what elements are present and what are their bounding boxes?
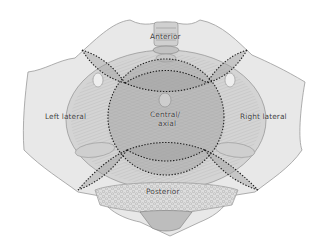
label-central-line1: Central/ <box>150 111 180 118</box>
pelvic-floor-diagram: Anterior Left lateral Central/ axial Rig… <box>0 0 322 245</box>
label-anterior: Anterior <box>150 33 181 40</box>
label-right-lateral: Right lateral <box>240 113 287 120</box>
label-posterior: Posterior <box>146 188 180 195</box>
label-central-line2: axial <box>158 120 176 127</box>
label-left-lateral: Left lateral <box>45 113 86 120</box>
